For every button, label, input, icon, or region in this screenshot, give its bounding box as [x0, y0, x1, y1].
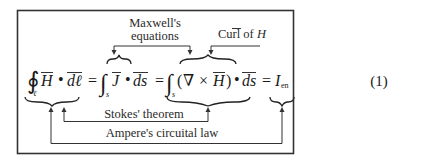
maxwell-label-line1: Maxwell's	[129, 16, 181, 30]
equation-figure: Maxwell's equations Curl of H ∮ ℓ H • dℓ…	[0, 0, 421, 159]
close-paren: )	[226, 72, 231, 90]
I-subscript: en	[281, 81, 289, 90]
dot-2: •	[125, 71, 131, 88]
term-H: H	[40, 72, 54, 89]
equals-2: =	[155, 72, 164, 89]
term-J: J	[112, 72, 120, 89]
term-dl: dℓ	[67, 72, 82, 89]
equals-3: =	[262, 72, 271, 89]
surface-subscript-1: s	[106, 90, 109, 99]
brace-over-J-ds	[107, 55, 131, 64]
equals-1: =	[88, 72, 97, 89]
curl-connector	[209, 46, 261, 55]
brace-under-line-integral	[25, 97, 79, 106]
brace-under-surface-integral	[167, 97, 250, 106]
stokes-label: Stokes' theorem	[104, 107, 184, 121]
dot-3: •	[234, 71, 240, 88]
equation-body: ∮ ℓ H • dℓ = ∫ s J • ds = ∫ s ( ∇ × H ) …	[27, 68, 289, 99]
surface-subscript-2: s	[172, 90, 175, 99]
cross: ×	[199, 72, 208, 89]
maxwell-label-line2: equations	[131, 29, 179, 43]
open-paren: (	[177, 72, 182, 90]
brace-under-Ien	[270, 97, 294, 106]
ampere-label: Ampere's circuital law	[106, 126, 219, 140]
equation-number: (1)	[370, 73, 388, 90]
brace-over-curl	[180, 55, 236, 64]
maxwell-connector	[112, 46, 193, 55]
nabla: ∇	[183, 72, 194, 89]
dot-1: •	[58, 71, 64, 88]
term-ds-1: ds	[133, 72, 147, 89]
curl-label: Curl of H	[218, 27, 267, 41]
term-ds-2: ds	[242, 72, 256, 89]
term-H-2: H	[212, 72, 226, 89]
term-I: I	[274, 72, 281, 89]
